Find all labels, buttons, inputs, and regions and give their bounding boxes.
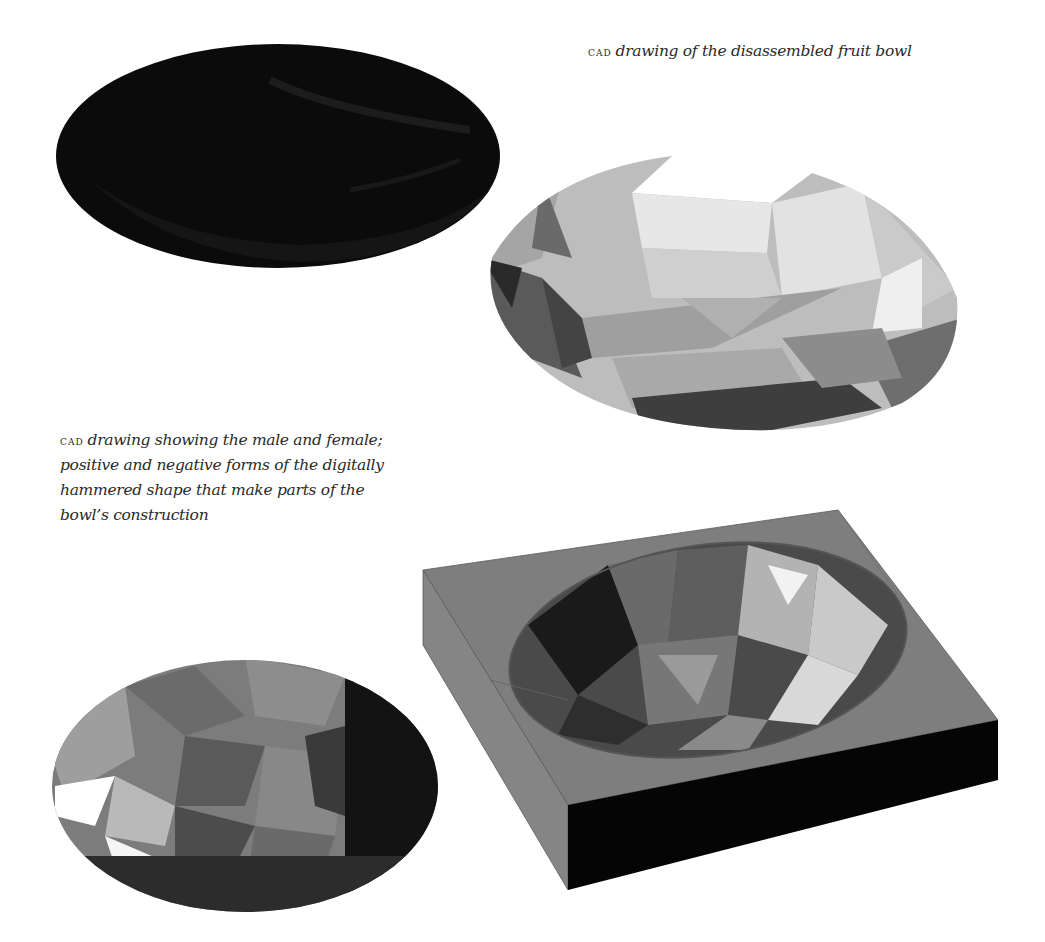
caption-prefix: CAD <box>588 44 612 59</box>
negative-mould-block-render <box>418 505 998 895</box>
caption-prefix: CAD <box>60 433 84 448</box>
black-bowl-render <box>50 40 510 280</box>
caption-text: drawing of the disassembled fruit bowl <box>616 42 912 60</box>
caption-male-female-forms: CADdrawing showing the male and female; … <box>60 428 405 528</box>
caption-text: drawing showing the male and female; pos… <box>60 431 384 524</box>
caption-disassembled-bowl: CADdrawing of the disassembled fruit bow… <box>588 42 912 60</box>
positive-form-render <box>45 636 445 916</box>
faceted-bowl-render <box>482 148 972 438</box>
